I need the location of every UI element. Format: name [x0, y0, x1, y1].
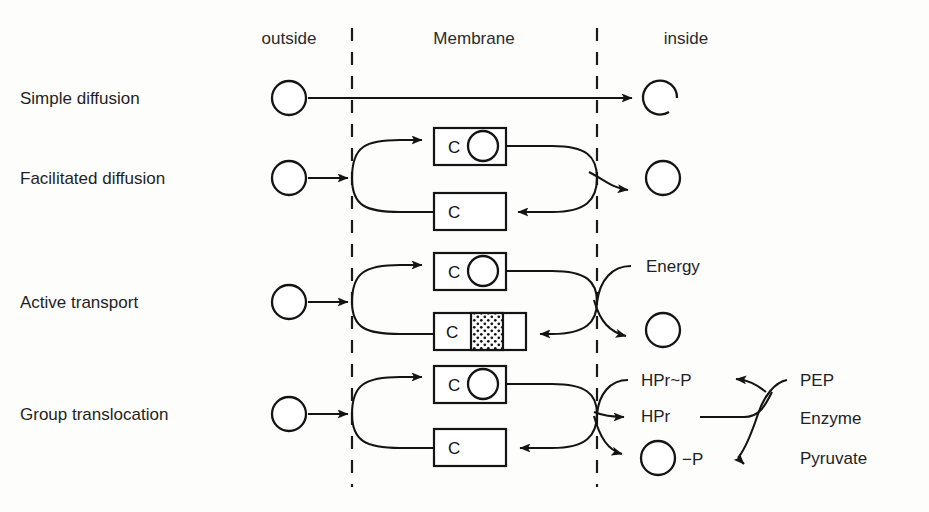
energized-segment — [471, 313, 503, 350]
annotation-hpr-phosphate: HPr~P — [641, 371, 692, 390]
annotation-pyruvate: Pyruvate — [800, 449, 867, 468]
carrier-letter: C — [448, 138, 460, 157]
column-header-outside: outside — [262, 29, 317, 48]
solute-circle-inside — [643, 81, 677, 115]
row-group-translocation: Group translocation C C HPr~P — [20, 366, 867, 475]
carrier-return-path — [352, 414, 434, 448]
annotation-pep: PEP — [800, 371, 834, 390]
hpr-output-arrow — [594, 412, 624, 417]
carrier-uptake-arrow — [352, 140, 422, 178]
carrier-letter: C — [448, 203, 460, 222]
row-active-transport: Active transport C C Energy — [20, 253, 700, 350]
bound-solute-circle — [468, 369, 498, 399]
column-header-inside: inside — [664, 29, 708, 48]
carrier-letter: C — [448, 439, 460, 458]
carrier-translocation-path — [506, 271, 597, 302]
carrier-recycle-arrow — [520, 414, 597, 448]
bound-solute-circle — [468, 256, 498, 286]
carrier-recycle-arrow — [518, 178, 597, 212]
bound-solute-circle — [468, 131, 498, 161]
hpr-phosphate-input-curve — [597, 380, 628, 414]
carrier-return-path — [352, 178, 434, 212]
carrier-translocation-path — [506, 146, 597, 178]
pep-to-pyruvate-curve — [738, 380, 787, 458]
column-header-membrane: Membrane — [433, 29, 514, 48]
pyruvate-arrowhead-stub — [738, 458, 744, 464]
row-simple-diffusion: Simple diffusion — [20, 81, 677, 115]
carrier-box-rect — [434, 193, 506, 230]
solute-circle-inside — [646, 161, 680, 195]
phospho-solute-arrow — [594, 416, 622, 454]
annotation-enzyme: Enzyme — [800, 409, 861, 428]
figure-canvas: outside Membrane inside Simple diffusion… — [0, 0, 929, 512]
row-label-active-transport: Active transport — [20, 293, 138, 312]
row-label-group-translocation: Group translocation — [20, 405, 168, 424]
row-facilitated-diffusion: Facilitated diffusion C C — [20, 128, 680, 230]
release-arrow — [589, 172, 628, 190]
carrier-letter: C — [448, 263, 460, 282]
carrier-box-loaded: C — [434, 366, 506, 403]
energy-input-curve — [597, 266, 631, 302]
carrier-box-energized: C — [434, 313, 526, 350]
row-label-simple-diffusion: Simple diffusion — [20, 89, 140, 108]
solute-circle-inside — [646, 313, 680, 347]
row-label-facilitated-diffusion: Facilitated diffusion — [20, 169, 165, 188]
carrier-box-rect — [434, 429, 506, 466]
annotation-energy: Energy — [646, 257, 700, 276]
carrier-box-loaded: C — [434, 128, 506, 165]
solute-circle-outside — [272, 397, 306, 431]
membrane-transport-diagram: outside Membrane inside Simple diffusion… — [0, 0, 929, 512]
carrier-box-empty: C — [434, 429, 506, 466]
release-arrow — [594, 300, 626, 336]
carrier-box-loaded: C — [434, 253, 506, 290]
annotation-hpr: HPr — [641, 407, 671, 426]
carrier-letter: C — [446, 323, 458, 342]
carrier-box-empty: C — [434, 193, 506, 230]
solute-circle-outside — [272, 81, 306, 115]
carrier-uptake-arrow — [352, 377, 422, 414]
carrier-recycle-arrow — [540, 302, 597, 334]
solute-circle-outside — [272, 161, 306, 195]
solute-circle-inside-phosphorylated — [641, 441, 675, 475]
carrier-translocation-path — [506, 384, 597, 414]
hpr-phosphorylation-arrow — [736, 379, 766, 392]
annotation-phosphate-group: −P — [682, 450, 703, 469]
solute-circle-outside — [272, 285, 306, 319]
carrier-letter: C — [448, 376, 460, 395]
carrier-uptake-arrow — [352, 265, 422, 302]
carrier-return-path — [352, 302, 434, 334]
